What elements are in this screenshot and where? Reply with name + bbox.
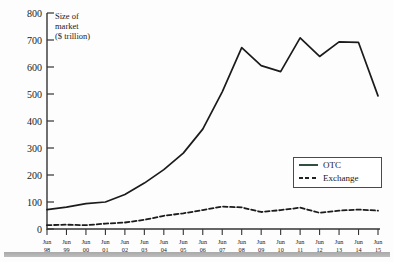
- solid-line-icon: [299, 160, 318, 169]
- svg-text:300: 300: [27, 143, 42, 154]
- y-axis-title-line-3: ($ trillion): [55, 31, 90, 41]
- svg-text:Jun: Jun: [179, 238, 188, 245]
- y-axis-title-line-2: market: [55, 21, 90, 31]
- svg-text:Jun: Jun: [62, 238, 71, 245]
- svg-text:Jun: Jun: [121, 238, 130, 245]
- dashed-line-icon: [299, 173, 318, 182]
- svg-text:Jun: Jun: [101, 238, 110, 245]
- svg-text:700: 700: [27, 35, 42, 46]
- x-axis: Jun98Jun99Jun00Jun01Jun02Jun03Jun04Jun05…: [43, 229, 383, 253]
- svg-text:Jun: Jun: [218, 238, 227, 245]
- y-axis-title-line-1: Size of: [55, 11, 90, 21]
- chart-figure: 0100200300400500600700800 Jun98Jun99Jun0…: [0, 0, 394, 262]
- svg-text:600: 600: [27, 62, 42, 73]
- svg-text:Jun: Jun: [257, 238, 266, 245]
- svg-text:Jun: Jun: [276, 238, 285, 245]
- legend-item-otc: OTC: [294, 158, 381, 171]
- legend-label-otc: OTC: [323, 160, 341, 170]
- y-axis: 0100200300400500600700800: [27, 8, 54, 235]
- svg-text:Jun: Jun: [374, 238, 383, 245]
- legend-label-exchange: Exchange: [323, 173, 358, 183]
- data-series: [47, 38, 378, 225]
- svg-text:200: 200: [27, 170, 42, 181]
- page-rule: [4, 252, 390, 257]
- svg-text:Jun: Jun: [160, 238, 169, 245]
- series-line-exchange: [47, 207, 378, 226]
- legend-item-exchange: Exchange: [294, 171, 381, 184]
- svg-text:Jun: Jun: [315, 238, 324, 245]
- svg-text:800: 800: [27, 8, 42, 19]
- svg-text:Jun: Jun: [354, 238, 363, 245]
- svg-text:Jun: Jun: [43, 238, 52, 245]
- y-axis-title: Size of market ($ trillion): [55, 11, 90, 42]
- svg-text:400: 400: [27, 116, 42, 127]
- svg-text:100: 100: [27, 197, 42, 208]
- svg-text:0: 0: [37, 224, 42, 235]
- svg-text:Jun: Jun: [237, 238, 246, 245]
- chart-legend: OTC Exchange: [293, 157, 382, 188]
- svg-text:500: 500: [27, 89, 42, 100]
- svg-text:Jun: Jun: [296, 238, 305, 245]
- svg-text:Jun: Jun: [335, 238, 344, 245]
- svg-text:Jun: Jun: [82, 238, 91, 245]
- svg-text:Jun: Jun: [140, 238, 149, 245]
- svg-text:Jun: Jun: [198, 238, 207, 245]
